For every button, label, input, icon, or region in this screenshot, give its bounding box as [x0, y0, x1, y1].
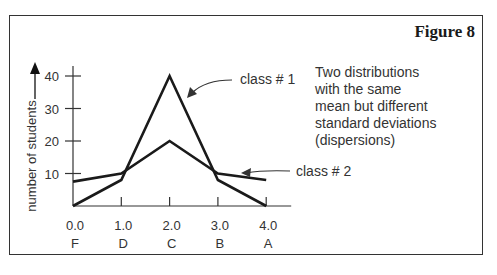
- description-line: (dispersions): [315, 132, 480, 149]
- y-tick-label: 20: [45, 134, 59, 149]
- x-tick-label: 4.0: [259, 218, 277, 233]
- y-tick-label: 40: [45, 69, 59, 84]
- up-arrow-icon: [30, 62, 40, 74]
- figure-title: Figure 8: [414, 22, 475, 42]
- x-grade-label: F: [71, 236, 79, 251]
- series-line-2: [73, 141, 266, 182]
- x-grade-label: B: [216, 236, 225, 251]
- annotation-arrow-2: [246, 171, 290, 173]
- description-line: mean but different: [315, 98, 480, 115]
- x-tick-label: 0.0: [66, 218, 84, 233]
- description-line: with the same: [315, 81, 480, 98]
- annotation-arrow-1: [192, 80, 232, 93]
- y-axis-label: number of students: [24, 100, 39, 212]
- x-grade-label: A: [264, 236, 273, 251]
- y-tick-label: 10: [45, 167, 59, 182]
- arrow-head-icon: [187, 87, 197, 98]
- annotation-class-1: class # 1: [240, 71, 295, 87]
- y-tick-label: 30: [45, 102, 59, 117]
- description-line: Two distributions: [315, 64, 480, 81]
- x-grade-label: D: [119, 236, 128, 251]
- x-tick-label: 3.0: [211, 218, 229, 233]
- annotation-class-2: class # 2: [296, 163, 351, 179]
- x-tick-label: 2.0: [163, 218, 181, 233]
- x-tick-label: 1.0: [114, 218, 132, 233]
- description-line: standard deviations: [315, 115, 480, 132]
- x-grade-label: C: [167, 236, 176, 251]
- figure-description: Two distributions with the same mean but…: [315, 64, 480, 149]
